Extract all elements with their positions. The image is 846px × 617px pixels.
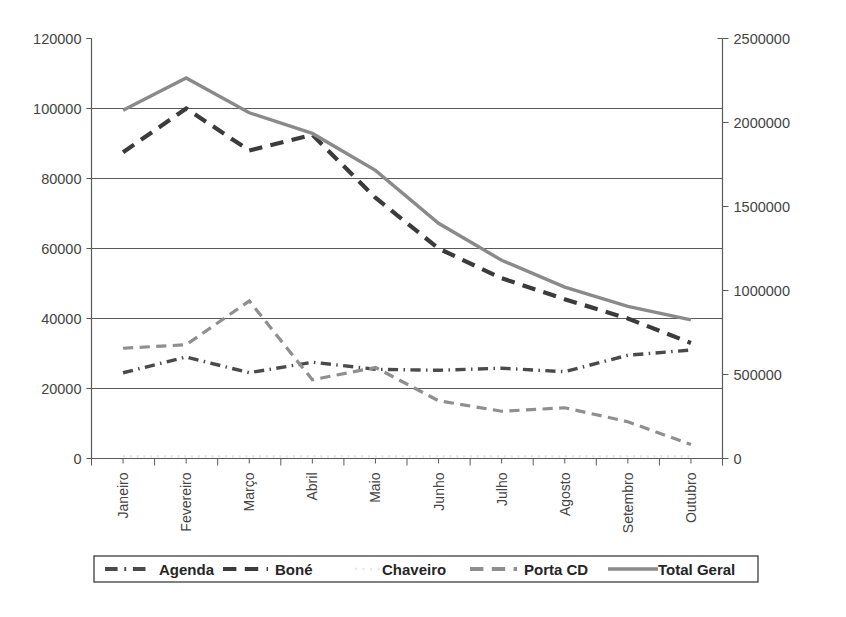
right-axis-tick-label: 0 — [734, 451, 742, 467]
left-axis-tick-label: 0 — [73, 451, 81, 467]
chart-container: 020000400006000080000100000120000 050000… — [0, 0, 846, 617]
x-axis-category-label: Setembro — [620, 472, 636, 533]
legend-label-total-geral[interactable]: Total Geral — [658, 561, 735, 578]
right-axis: 05000001000000150000020000002500000 — [718, 31, 790, 467]
left-axis-tick-label: 40000 — [41, 311, 81, 327]
series-lines — [123, 78, 691, 456]
right-axis-tick-label: 2500000 — [734, 31, 790, 47]
left-axis: 020000400006000080000100000120000 — [33, 31, 91, 467]
x-axis-category-label: Fevereiro — [178, 472, 194, 531]
category-labels: JaneiroFevereiroMarçoAbrilMaioJunhoJulho… — [115, 472, 699, 533]
left-axis-tick-label: 60000 — [41, 241, 81, 257]
x-axis-category-label: Julho — [494, 472, 510, 506]
x-axis-category-label: Abril — [304, 473, 320, 501]
x-axis-category-label: Março — [241, 472, 257, 511]
right-axis-tick-label: 2000000 — [734, 115, 790, 131]
legend-label-agenda[interactable]: Agenda — [159, 561, 215, 578]
x-axis-category-label: Junho — [431, 472, 447, 510]
chart-legend[interactable]: AgendaBonéChaveiroPorta CDTotal Geral — [94, 556, 758, 582]
left-axis-tick-label: 100000 — [33, 101, 81, 117]
series-line-agenda — [123, 350, 691, 373]
legend-label-chaveiro[interactable]: Chaveiro — [382, 561, 446, 578]
right-axis-tick-label: 500000 — [734, 367, 782, 383]
x-axis-category-label: Janeiro — [115, 472, 131, 518]
series-line-porta-cd — [123, 301, 691, 445]
x-axis-category-label: Agosto — [557, 472, 573, 516]
series-line-bon — [123, 109, 691, 344]
legend-label-porta-cd[interactable]: Porta CD — [524, 561, 588, 578]
legend-label-bon[interactable]: Boné — [275, 561, 313, 578]
left-axis-tick-label: 80000 — [41, 171, 81, 187]
series-line-total-geral — [123, 78, 691, 320]
x-axis-category-label: Outubro — [683, 472, 699, 523]
right-axis-tick-label: 1500000 — [734, 199, 790, 215]
x-axis-category-label: Maio — [367, 472, 383, 503]
left-axis-tick-label: 120000 — [33, 31, 81, 47]
x-axis — [92, 459, 723, 466]
line-chart: 020000400006000080000100000120000 050000… — [0, 0, 846, 617]
left-axis-tick-label: 20000 — [41, 381, 81, 397]
right-axis-tick-label: 1000000 — [734, 283, 790, 299]
grid-lines — [92, 109, 723, 459]
